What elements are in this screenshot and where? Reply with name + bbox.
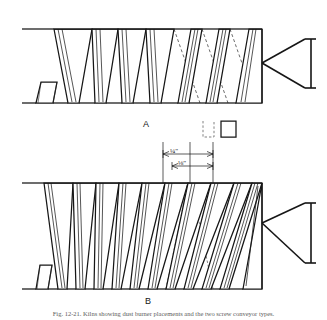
panel-label-a: A bbox=[143, 119, 149, 129]
figure-root: .stroke-main{fill:none;stroke:#161616;st… bbox=[0, 0, 327, 320]
figure-caption: Fig. 12-21. Kilns showing dust burner pl… bbox=[0, 310, 327, 318]
dimension-label-outer: ¼" bbox=[170, 147, 178, 155]
screw-conveyor-line-drawing: .stroke-main{fill:none;stroke:#161616;st… bbox=[0, 0, 327, 320]
panel-label-b: B bbox=[145, 296, 151, 306]
dimension-label-inner: ⅛" bbox=[178, 159, 186, 167]
